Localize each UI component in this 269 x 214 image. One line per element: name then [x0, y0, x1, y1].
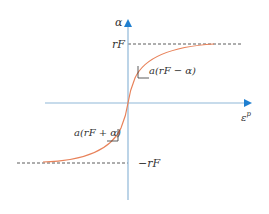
y-axis-arrow-icon	[124, 19, 132, 27]
lower-level-label: −rF	[138, 157, 160, 170]
upper-slope-triangle	[138, 66, 149, 78]
x-axis-label: εp	[241, 110, 251, 123]
x-axis-arrow-icon	[244, 99, 252, 107]
lower-slope-label: a(rF + α)	[74, 127, 121, 138]
y-axis-label: α	[115, 16, 123, 29]
upper-slope-label: a(rF − α)	[149, 65, 196, 76]
saturation-diagram: α εp rF −rF a(rF − α) a(rF + α)	[0, 0, 269, 214]
upper-level-label: rF	[112, 38, 125, 51]
